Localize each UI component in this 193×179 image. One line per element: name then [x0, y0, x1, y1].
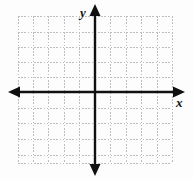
x-axis-arrow-left — [8, 87, 20, 98]
coordinate-axes — [0, 0, 193, 179]
coordinate-plane-figure: y x — [0, 0, 193, 179]
x-axis-label: x — [176, 96, 183, 109]
y-axis-arrow-down — [90, 164, 101, 176]
y-axis-arrow-up — [90, 4, 101, 16]
y-axis-label: y — [80, 6, 86, 19]
